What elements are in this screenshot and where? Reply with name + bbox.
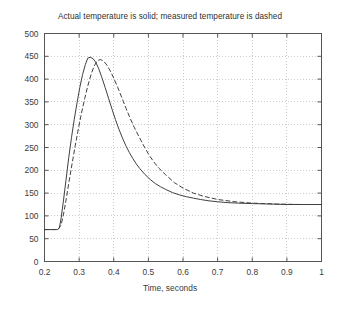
- y-axis-tick-labels: 050100150200250300350400450500: [25, 29, 39, 267]
- x-tick-label: 0.6: [177, 267, 189, 277]
- y-tick-label: 500: [25, 29, 39, 39]
- y-tick-label: 300: [25, 120, 39, 130]
- y-tick-label: 450: [25, 51, 39, 61]
- grid-layer: [45, 34, 322, 262]
- y-tick-label: 200: [25, 165, 39, 175]
- y-tick-label: 150: [25, 188, 39, 198]
- series-line-actual: [45, 57, 322, 229]
- x-axis-tick-labels: 0.20.30.40.50.60.70.80.91: [39, 267, 324, 277]
- x-tick-label: 0.4: [108, 267, 120, 277]
- x-tick-label: 0.9: [281, 267, 293, 277]
- y-tick-label: 0: [34, 257, 39, 267]
- y-tick-label: 50: [29, 234, 39, 244]
- y-tick-label: 100: [25, 211, 39, 221]
- plot-canvas: 050100150200250300350400450500 0.20.30.4…: [0, 0, 340, 311]
- x-tick-label: 0.3: [73, 267, 85, 277]
- y-tick-label: 250: [25, 143, 39, 153]
- y-tick-label: 400: [25, 74, 39, 84]
- x-tick-label: 0.2: [39, 267, 51, 277]
- x-tick-label: 0.5: [143, 267, 155, 277]
- x-tick-label: 1: [319, 267, 324, 277]
- y-tick-label: 350: [25, 97, 39, 107]
- x-axis-label: Time, seconds: [0, 283, 340, 293]
- data-series-layer: [45, 57, 322, 229]
- x-tick-label: 0.7: [212, 267, 224, 277]
- temperature-chart-figure: Actual temperature is solid; measured te…: [0, 0, 340, 311]
- x-tick-label: 0.8: [246, 267, 258, 277]
